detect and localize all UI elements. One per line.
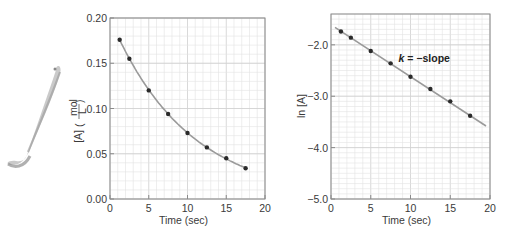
- x-tick-labels: 05101520: [107, 195, 271, 214]
- x-axis-label: Time (sec): [159, 214, 208, 226]
- y-axis-label-paren-open: (: [73, 123, 85, 127]
- data-point: [339, 29, 343, 33]
- data-points: [117, 38, 247, 171]
- data-point: [127, 57, 131, 61]
- ln-concentration-vs-time-chart: 05101520 −5.0−4.0−3.0−2.0 Time (sec) ln …: [295, 14, 496, 226]
- y-axis-label: [A] ( mol L ): [67, 99, 88, 143]
- data-point: [408, 74, 412, 78]
- x-tick-label: 15: [444, 202, 456, 214]
- y-axis-label-denominator: L: [76, 108, 88, 114]
- data-point: [117, 38, 121, 42]
- y-tick-label: 0.00: [87, 193, 108, 205]
- y-axis-label-paren-close: ): [73, 100, 85, 104]
- y-tick-label: 0.20: [87, 12, 108, 24]
- data-point: [205, 145, 209, 149]
- x-tick-label: 0: [328, 202, 334, 214]
- data-point: [185, 131, 189, 135]
- x-tick-label: 15: [220, 202, 232, 214]
- figure: 05101520 0.000.050.100.150.20 Time (sec)…: [0, 0, 505, 237]
- data-point: [448, 99, 452, 103]
- y-tick-label: −3.0: [307, 90, 328, 102]
- y-axis-label: ln [A]: [295, 94, 307, 118]
- x-tick-label: 20: [484, 202, 496, 214]
- data-point: [349, 35, 353, 39]
- x-tick-label: 5: [146, 202, 152, 214]
- x-tick-label: 20: [259, 202, 271, 214]
- y-axis-label-main: [A]: [72, 130, 84, 143]
- y-tick-label: 0.10: [87, 103, 108, 115]
- x-axis-label: Time (sec): [382, 214, 431, 226]
- data-point: [369, 49, 373, 53]
- x-tick-label: 10: [405, 202, 417, 214]
- x-tick-label: 0: [107, 202, 113, 214]
- y-tick-label: −2.0: [307, 39, 328, 51]
- grid: [331, 14, 490, 199]
- data-point: [147, 88, 151, 92]
- data-point: [388, 61, 392, 65]
- fit-curve: [120, 40, 246, 168]
- x-tick-labels: 05101520: [328, 195, 496, 214]
- data-point: [428, 87, 432, 91]
- data-point: [224, 156, 228, 160]
- grid: [110, 18, 265, 199]
- data-point: [166, 112, 170, 116]
- x-tick-label: 5: [368, 202, 374, 214]
- y-tick-label: −4.0: [307, 142, 328, 154]
- y-tick-label: 0.15: [87, 57, 108, 69]
- y-tick-label: −5.0: [307, 193, 328, 205]
- x-tick-label: 10: [182, 202, 194, 214]
- y-tick-label: 0.05: [87, 148, 108, 160]
- data-point: [468, 114, 472, 118]
- concentration-vs-time-chart: 05101520 0.000.050.100.150.20 Time (sec)…: [67, 12, 271, 226]
- annotation-rest: = −slope: [404, 52, 450, 64]
- brush-swoosh-decoration: [8, 66, 61, 166]
- slope-annotation: k = −slope: [399, 52, 451, 64]
- data-point: [243, 166, 247, 170]
